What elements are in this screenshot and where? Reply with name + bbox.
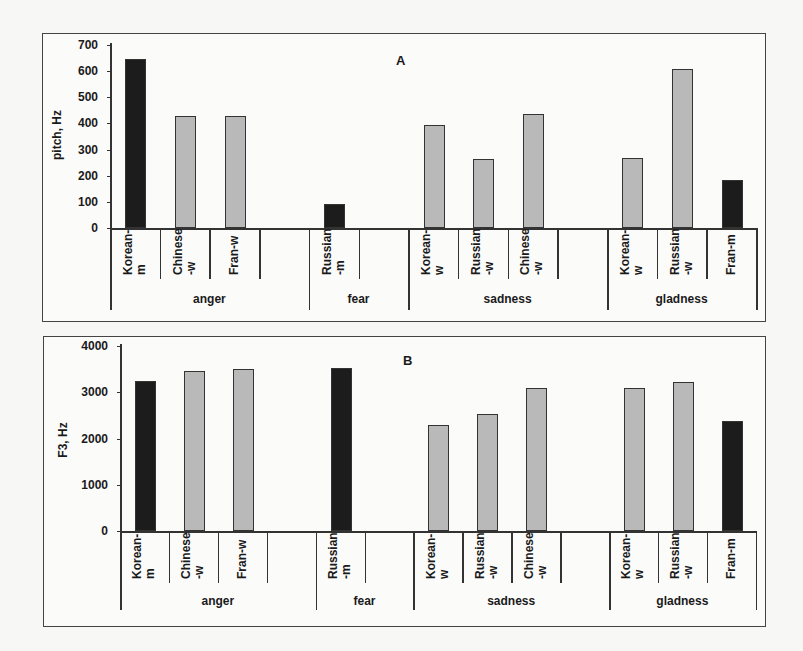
category-label: Russian -w (474, 536, 500, 579)
category-label: Russian -w (669, 233, 695, 275)
bar-sadness-chinese-w (526, 388, 547, 531)
slot-divider (508, 228, 510, 279)
bar-sadness-korean-w (424, 125, 445, 228)
slot-divider (160, 228, 162, 279)
y-tick-label: 2000 (68, 433, 108, 445)
slot-divider (169, 531, 171, 583)
category-label: Russian -w (470, 233, 496, 275)
group-label-gladness: gladness (609, 594, 756, 608)
category-label: Korean- m (122, 233, 148, 275)
y-tick (107, 228, 111, 229)
slot-divider (209, 228, 211, 279)
slot-divider (706, 228, 708, 279)
category-label: Chinese -w (180, 536, 206, 579)
x-axis-line (120, 531, 756, 533)
slot-divider (658, 531, 660, 583)
bar-gladness-korean-w (622, 158, 643, 228)
y-tick-label: 1000 (68, 479, 108, 491)
category-label: Korean- w (420, 233, 446, 275)
y-tick (107, 45, 111, 46)
bar-sadness-korean-w (428, 425, 449, 531)
slot-divider (259, 228, 261, 279)
group-divider (756, 531, 758, 610)
y-tick (117, 346, 121, 347)
group-label-sadness: sadness (408, 292, 607, 306)
x-axis-line (110, 228, 756, 230)
y-tick (117, 485, 121, 486)
slot-divider (560, 531, 562, 583)
bar-sadness-russian-w (477, 414, 498, 531)
y-tick-label: 700 (58, 39, 98, 51)
group-label-anger: anger (120, 594, 316, 608)
category-label: Chinese -w (523, 536, 549, 579)
category-label: Russian -w (669, 536, 695, 579)
bar-anger-fran-w (225, 116, 246, 228)
chart-a-y-axis-label: pitch, Hz (50, 105, 64, 165)
y-tick-label: 400 (58, 117, 98, 129)
group-label-fear: fear (309, 292, 408, 306)
y-tick-label: 600 (58, 65, 98, 77)
bar-anger-korean-m (125, 59, 146, 228)
y-tick-label: 3000 (68, 386, 108, 398)
bar-gladness-fran-m (722, 421, 743, 531)
category-label: Russian -m (327, 536, 353, 579)
slot-divider (657, 228, 659, 279)
y-tick (107, 202, 111, 203)
bar-anger-korean-m (135, 381, 156, 531)
bar-anger-chinese-w (175, 116, 196, 228)
bar-gladness-korean-w (624, 388, 645, 531)
y-tick (107, 97, 111, 98)
bar-gladness-russian-w (673, 382, 694, 531)
category-label: Fran-w (228, 233, 241, 275)
y-tick (117, 392, 121, 393)
y-tick-label: 4000 (68, 340, 108, 352)
category-label: Russian -m (321, 233, 347, 275)
y-tick-label: 100 (58, 196, 98, 208)
bar-anger-fran-w (233, 369, 254, 531)
y-tick-label: 0 (58, 222, 98, 234)
y-tick (107, 71, 111, 72)
bar-gladness-fran-m (722, 180, 743, 228)
slot-divider (707, 531, 709, 583)
group-divider (756, 228, 758, 310)
y-tick-label: 200 (58, 170, 98, 182)
bar-sadness-russian-w (473, 159, 494, 228)
slot-divider (557, 228, 559, 279)
category-label: Fran-w (236, 536, 249, 579)
bar-anger-chinese-w (184, 371, 205, 531)
bar-sadness-chinese-w (523, 114, 544, 228)
y-tick (107, 150, 111, 151)
slot-divider (267, 531, 269, 583)
y-tick-label: 300 (58, 144, 98, 156)
slot-divider (458, 228, 460, 279)
y-tick-label: 0 (68, 525, 108, 537)
category-label: Korean- w (425, 536, 451, 579)
slot-divider (359, 228, 361, 279)
category-label: Fran-m (725, 233, 738, 275)
y-tick (117, 439, 121, 440)
slot-divider (365, 531, 367, 583)
slot-divider (218, 531, 220, 583)
y-axis-line (120, 344, 122, 531)
y-tick (107, 176, 111, 177)
chart-b-title: B (403, 353, 412, 368)
category-label: Korean- w (619, 233, 645, 275)
bar-fear-russian-m (331, 368, 352, 531)
category-label: Fran-m (725, 536, 738, 579)
bar-fear-russian-m (324, 204, 345, 228)
y-tick (117, 531, 121, 532)
slot-divider (462, 531, 464, 583)
y-tick-label: 500 (58, 91, 98, 103)
group-label-sadness: sadness (413, 594, 609, 608)
y-tick (107, 123, 111, 124)
category-label: Chinese -w (172, 233, 198, 275)
group-label-anger: anger (110, 292, 309, 306)
group-label-fear: fear (316, 594, 414, 608)
bar-gladness-russian-w (672, 69, 693, 228)
category-label: Chinese -w (519, 233, 545, 275)
category-label: Korean- w (620, 536, 646, 579)
slot-divider (511, 531, 513, 583)
category-label: Korean- m (131, 536, 157, 579)
group-label-gladness: gladness (607, 292, 756, 306)
chart-a-title: A (396, 53, 405, 68)
